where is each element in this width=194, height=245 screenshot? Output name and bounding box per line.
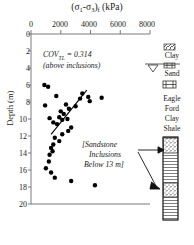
data-point bbox=[47, 153, 51, 157]
data-point bbox=[43, 103, 47, 107]
shale-symbol-icon bbox=[163, 81, 176, 88]
data-point bbox=[49, 170, 53, 174]
data-point bbox=[69, 179, 73, 183]
data-point bbox=[64, 102, 68, 106]
data-point bbox=[62, 112, 66, 116]
data-point bbox=[66, 129, 70, 133]
data-point bbox=[88, 99, 92, 103]
soil-column-inclusion-band-lower bbox=[164, 183, 178, 197]
data-point bbox=[53, 136, 57, 140]
data-point bbox=[50, 149, 54, 153]
data-point bbox=[65, 117, 69, 121]
figure-root: (σ1-σ3)f (kPa) Depth (m) 0 2000 4000 600… bbox=[0, 0, 194, 245]
data-point bbox=[60, 132, 64, 136]
data-point bbox=[46, 85, 50, 89]
data-point bbox=[69, 125, 73, 129]
data-point bbox=[86, 95, 90, 99]
clay-symbol-icon bbox=[164, 44, 175, 50]
annotation-arrows bbox=[138, 147, 164, 189]
data-point bbox=[54, 94, 58, 98]
data-point bbox=[47, 159, 51, 163]
x-axis-ticks bbox=[31, 30, 150, 34]
data-point bbox=[93, 183, 97, 187]
stratigraphy-column bbox=[145, 44, 180, 220]
data-point bbox=[47, 116, 51, 120]
chart-svg bbox=[0, 0, 194, 245]
data-point bbox=[99, 96, 103, 100]
data-point bbox=[57, 139, 61, 143]
data-point bbox=[53, 175, 57, 179]
soil-column-inclusion-band-upper bbox=[164, 138, 178, 153]
data-point-group bbox=[42, 83, 104, 188]
data-point bbox=[44, 166, 48, 170]
